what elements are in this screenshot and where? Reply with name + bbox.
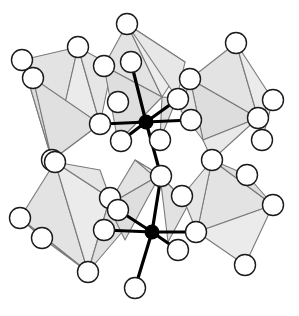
anion-02 bbox=[12, 50, 33, 71]
anion-22 bbox=[78, 262, 99, 283]
anion-31 bbox=[237, 165, 258, 186]
anion-25 bbox=[94, 220, 115, 241]
anion-11 bbox=[181, 110, 202, 131]
anion-33 bbox=[150, 130, 171, 151]
anion-21 bbox=[32, 228, 53, 249]
anion-07 bbox=[121, 52, 142, 73]
anion-12 bbox=[226, 33, 247, 54]
anion-09 bbox=[108, 92, 129, 113]
anion-01 bbox=[68, 37, 89, 58]
anion-13 bbox=[180, 69, 201, 90]
anion-03 bbox=[23, 68, 44, 89]
anion-26 bbox=[186, 222, 207, 243]
anion-08 bbox=[94, 56, 115, 77]
cation-upper bbox=[139, 115, 154, 130]
anion-16 bbox=[111, 131, 132, 152]
anion-29 bbox=[263, 195, 284, 216]
anion-18 bbox=[202, 150, 223, 171]
anion-17 bbox=[151, 166, 172, 187]
anion-10 bbox=[168, 89, 189, 110]
anion-32 bbox=[172, 186, 193, 207]
anion-30 bbox=[235, 255, 256, 276]
anion-24 bbox=[108, 200, 129, 221]
anion-28 bbox=[125, 278, 146, 299]
cation-lower bbox=[145, 225, 160, 240]
anion-15 bbox=[248, 108, 269, 129]
anion-14 bbox=[263, 90, 284, 111]
anion-06 bbox=[117, 14, 138, 35]
anion-19 bbox=[45, 152, 66, 173]
crystal-structure-figure bbox=[0, 0, 299, 316]
anion-05 bbox=[90, 114, 111, 135]
structure-canvas bbox=[0, 0, 299, 316]
anion-20 bbox=[10, 208, 31, 229]
anion-27 bbox=[168, 240, 189, 261]
anion-34 bbox=[252, 130, 273, 151]
